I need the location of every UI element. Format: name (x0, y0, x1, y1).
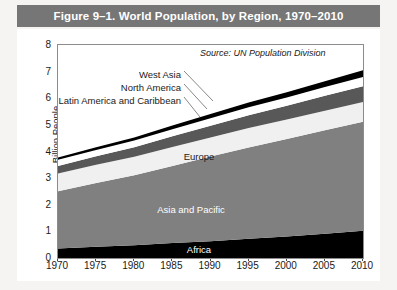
band-label-europe: Europe (184, 151, 215, 162)
x-axis-ticks: 197019751980198519901995200020052010 (17, 257, 380, 281)
callout-west-asia: West Asia (17, 69, 181, 80)
y-tick-label: 8 (29, 39, 51, 50)
x-tick-label: 1990 (198, 260, 220, 271)
callout-latin-america: Latin America and Caribbean (17, 95, 181, 106)
x-tick-label: 1970 (46, 260, 68, 271)
x-tick-label: 1980 (122, 260, 144, 271)
x-tick-label: 1975 (84, 260, 106, 271)
figure-title-bar: Figure 9–1. World Population, by Region,… (17, 5, 380, 27)
y-tick-label: 1 (29, 225, 51, 236)
chart-card: Billion People 012345678 197019751980198… (17, 29, 380, 281)
band-label-africa: Africa (187, 244, 211, 255)
band-label-asia-and-pacific: Asia and Pacific (157, 204, 225, 215)
y-axis-ticks: 012345678 (25, 29, 51, 281)
x-tick-label: 1995 (237, 260, 259, 271)
x-tick-label: 2010 (351, 260, 373, 271)
x-tick-label: 2005 (313, 260, 335, 271)
figure-container: Figure 9–1. World Population, by Region,… (0, 0, 397, 290)
page-title: Figure 9–1. World Population, by Region,… (54, 10, 344, 22)
x-tick-label: 2000 (275, 260, 297, 271)
y-tick-label: 5 (29, 118, 51, 129)
x-tick-label: 1985 (160, 260, 182, 271)
y-tick-label: 4 (29, 145, 51, 156)
source-note: Source: UN Population Division (200, 48, 326, 58)
y-tick-label: 3 (29, 172, 51, 183)
callout-north-america: North America (17, 82, 181, 93)
y-tick-label: 2 (29, 198, 51, 209)
